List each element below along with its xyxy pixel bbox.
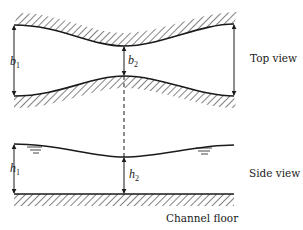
h1-label: h1 <box>10 161 20 177</box>
top-view: b1 b2 Top view <box>10 12 297 108</box>
side-view: h1 h2 Side view Channel floor <box>10 144 300 224</box>
h2-label: h2 <box>129 167 139 183</box>
side-view-label: Side view <box>249 167 300 179</box>
b1-label: b1 <box>10 54 20 70</box>
top-view-label: Top view <box>250 52 297 64</box>
channel-floor-label: Channel floor <box>166 212 239 224</box>
channel-contraction-diagram: b1 b2 Top view h1 <box>0 0 303 230</box>
channel-floor-hatch <box>14 194 234 206</box>
b2-label: b2 <box>128 53 138 69</box>
water-surface-symbol-right <box>196 148 212 154</box>
water-surface-symbol-left <box>27 147 42 153</box>
